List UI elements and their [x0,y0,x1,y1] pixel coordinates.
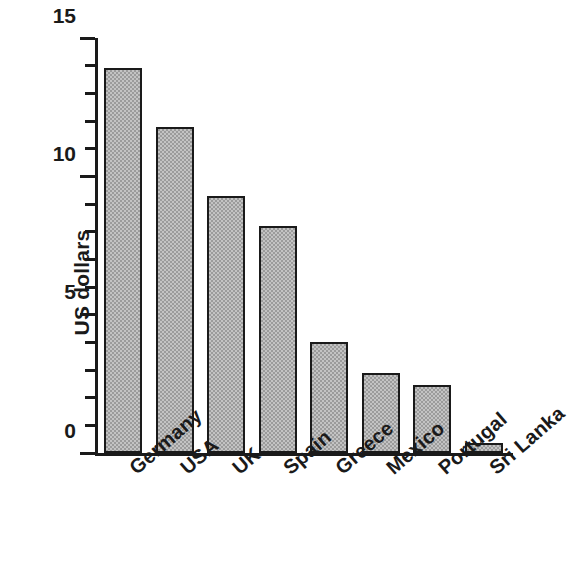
y-axis-minor-tick [85,230,95,233]
y-axis-minor-tick [85,424,95,427]
y-axis-minor-tick [85,369,95,372]
y-axis-major-tick [80,37,95,40]
bar [259,226,297,453]
y-axis-minor-tick [85,258,95,261]
y-axis-minor-tick [85,396,95,399]
bar [156,127,194,453]
y-axis-tick-label: 0 [64,419,76,443]
y-axis-minor-tick [85,203,95,206]
y-axis-major-tick [80,313,95,316]
y-axis-minor-tick [85,64,95,67]
y-axis-major-tick [80,175,95,178]
y-axis-tick-label: 5 [64,280,76,304]
y-axis-minor-tick [85,120,95,123]
y-axis-minor-tick [85,147,95,150]
bar [104,68,142,453]
y-axis-minor-tick [85,92,95,95]
y-axis-line [95,38,98,456]
y-axis-tick-label: 15 [53,4,76,28]
y-axis-minor-tick [85,286,95,289]
y-axis-major-tick [80,452,95,455]
bar [207,196,245,453]
y-axis-minor-tick [85,341,95,344]
y-axis-tick-label: 10 [53,142,76,166]
plot-area: 051015 [95,38,515,456]
